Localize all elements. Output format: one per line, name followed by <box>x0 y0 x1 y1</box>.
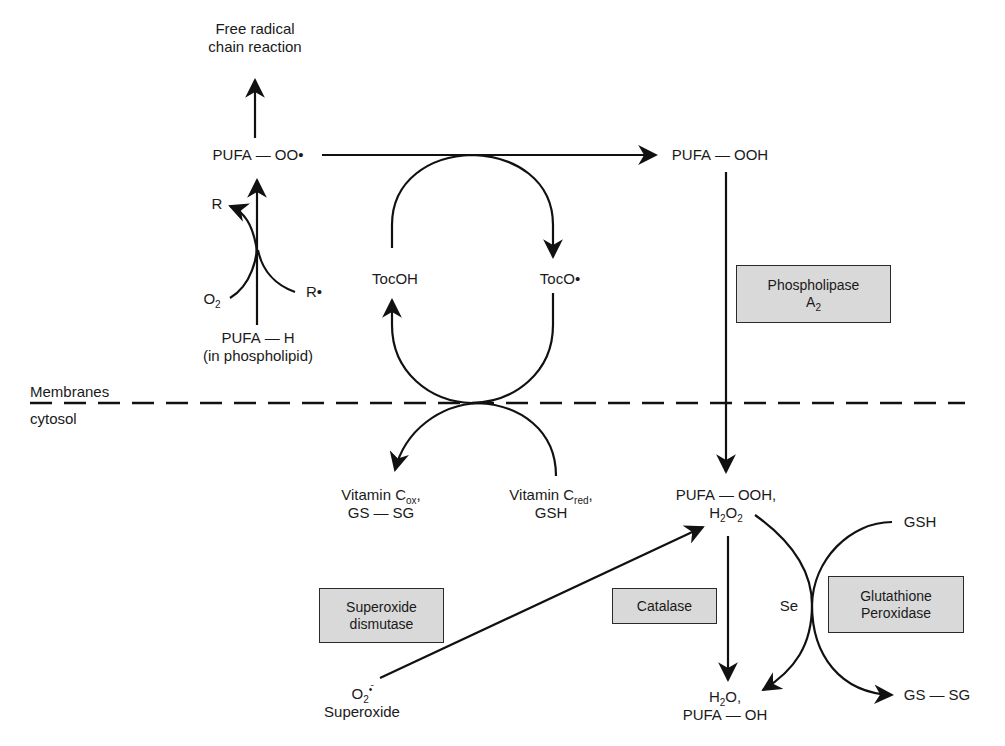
catalase-box: Catalase <box>612 588 717 624</box>
h-text: H <box>709 504 720 521</box>
toco-radical-label: TocO• <box>540 270 580 288</box>
oxygen-label: O2 <box>203 290 220 308</box>
free-radical-line2: chain reaction <box>208 38 301 56</box>
sg-text: SG <box>392 504 414 521</box>
oh-text: OH <box>745 706 768 723</box>
membranes-label: Membranes <box>30 383 109 401</box>
red-subscript: red <box>574 495 588 506</box>
diagram-connectors <box>0 0 1005 746</box>
curve-o2-to-r <box>230 206 256 298</box>
superoxide-text: Superoxide <box>324 703 400 721</box>
pufa-h-label: PUFA—H (in phospholipid) <box>203 329 313 365</box>
gssg-label: GS—SG <box>904 686 970 704</box>
o-text: O <box>352 685 364 702</box>
radical-anion-superscript: •̄ <box>369 684 373 695</box>
h-text: H <box>709 688 720 705</box>
subscript-2: 2 <box>215 299 221 310</box>
gs-text: GS <box>348 504 370 521</box>
dismutase-text: dismutase <box>350 616 414 633</box>
cytosol-label: cytosol <box>30 410 77 428</box>
bond-dash: — <box>256 146 271 164</box>
arc-vitamin-c-red-to-ox <box>395 403 556 476</box>
superoxide-dismutase-box: Superoxide dismutase <box>319 588 444 643</box>
oo-radical-text: OO• <box>275 146 304 163</box>
pufa-text: PUFA <box>676 486 715 503</box>
bond-dash: — <box>930 686 945 704</box>
pufa-peroxyl-radical-label: PUFA—OO• <box>213 146 304 164</box>
r-product-label: R <box>212 195 223 213</box>
r-radical-label: R• <box>306 283 322 301</box>
pufa-hydroperoxide-label: PUFA—OOH <box>672 146 768 164</box>
sg-text: SG <box>949 686 971 703</box>
catalase-text: Catalase <box>637 598 692 615</box>
o-text: O <box>726 504 738 521</box>
pufa-text: PUFA <box>221 329 260 346</box>
h-text: H <box>284 329 295 346</box>
bond-dash: — <box>265 329 280 347</box>
vitamin-c-text: Vitamin C <box>509 486 574 503</box>
gsh-text: GSH <box>509 504 592 522</box>
selenium-label: Se <box>780 597 798 615</box>
free-radical-line1: Free radical <box>208 20 301 38</box>
pufa-text: PUFA <box>672 146 711 163</box>
free-radical-label: Free radical chain reaction <box>208 20 301 56</box>
arc-tocoh-to-toco-radical <box>392 155 553 257</box>
glutathione-text: Glutathione <box>860 588 932 605</box>
o-text: O <box>203 290 215 307</box>
bond-dash: — <box>373 504 388 522</box>
phospholipase-text: Phospholipase <box>768 277 860 294</box>
bond-dash: — <box>719 486 734 504</box>
vitamin-c-text: Vitamin C <box>341 486 406 503</box>
vitamin-c-reduced-label: Vitamin Cred, GSH <box>509 486 592 522</box>
subscript-2: 2 <box>737 513 743 524</box>
pufa-text: PUFA <box>213 146 252 163</box>
ooh-text: OOH, <box>738 486 776 503</box>
pufa-text: PUFA <box>683 706 722 723</box>
glutathione-peroxidase-box: Glutathione Peroxidase <box>828 576 964 633</box>
a-text: A <box>806 294 815 310</box>
superoxide-label: O2•̄ Superoxide <box>324 685 400 721</box>
bond-dash: — <box>715 146 730 164</box>
o-text: O, <box>725 688 741 705</box>
gs-text: GS <box>904 686 926 703</box>
phospholipase-a2-box: Phospholipase A2 <box>736 265 891 323</box>
comma: , <box>589 486 593 503</box>
tocoh-label: TocOH <box>372 270 418 288</box>
comma: , <box>417 486 421 503</box>
in-phospholipid-note: (in phospholipid) <box>203 347 313 365</box>
curve-r-radical <box>258 250 295 292</box>
superoxide-text: Superoxide <box>346 599 417 616</box>
ooh-text: OOH <box>734 146 768 163</box>
peroxidase-text: Peroxidase <box>861 605 931 622</box>
bond-dash: — <box>726 706 741 724</box>
gsh-label: GSH <box>904 513 937 531</box>
products-label: H2O, PUFA—OH <box>683 688 768 724</box>
vitamin-e-antioxidant-diagram: Free radical chain reaction PUFA—OO• PUF… <box>0 0 1005 746</box>
subscript-2: 2 <box>815 302 821 313</box>
peroxides-label: PUFA—OOH, H2O2 <box>676 486 777 522</box>
vitamin-c-oxidized-label: Vitamin Cox, GS—SG <box>341 486 420 522</box>
arc-toco-radical-to-tocoh <box>392 293 553 403</box>
